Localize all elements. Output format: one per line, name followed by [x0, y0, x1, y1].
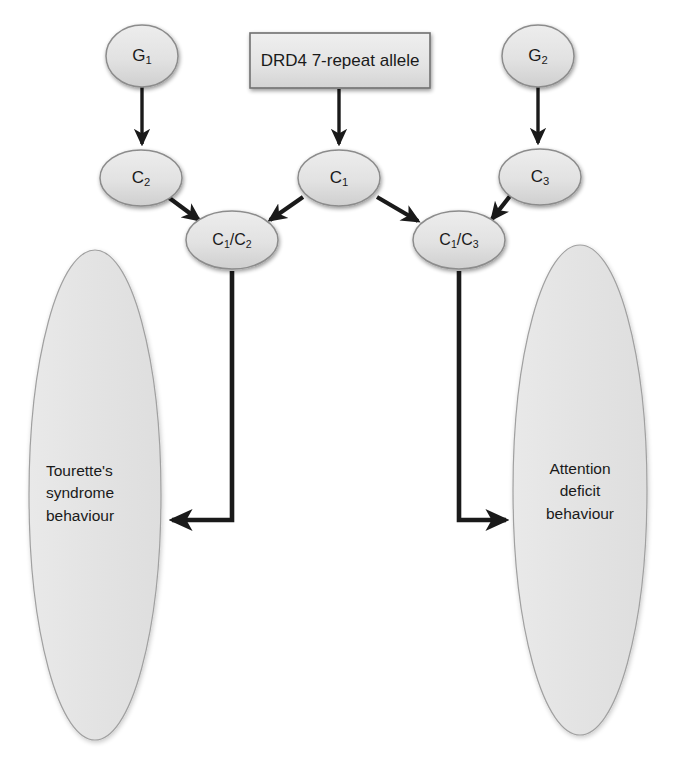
edge-c1-to-c1c2: [270, 197, 303, 220]
outcome-ellipse-attention-deficit: [513, 245, 647, 735]
edge-group-elbow: [172, 271, 506, 520]
node-shape-c3[interactable]: [499, 149, 581, 205]
node-shape-c2[interactable]: [100, 150, 182, 206]
edge-group-vertical: [142, 87, 538, 144]
node-shape-drd4[interactable]: [250, 33, 430, 88]
edge-c2-to-c1c2: [168, 197, 199, 220]
node-shapes: [100, 25, 581, 269]
outcome-ellipse-tourettes: [29, 250, 161, 740]
node-shape-g2[interactable]: [502, 25, 574, 87]
diagram-canvas: G1 G2 DRD4 7-repeat allele C2 C1 C3 C1/C…: [0, 0, 679, 767]
edge-c3-to-c1c3: [492, 196, 510, 219]
edge-c1c2-to-tourettes: [172, 271, 232, 520]
node-shape-c1c3[interactable]: [413, 211, 505, 269]
edge-c1c3-to-attention-deficit: [459, 271, 506, 520]
node-shape-g1[interactable]: [106, 25, 178, 87]
edge-c1-to-c1c3: [377, 197, 418, 221]
node-shape-c1[interactable]: [298, 150, 380, 206]
node-shape-c1c2[interactable]: [186, 211, 278, 269]
diagram-graphics: [0, 0, 679, 767]
outcome-shapes: [29, 245, 647, 740]
